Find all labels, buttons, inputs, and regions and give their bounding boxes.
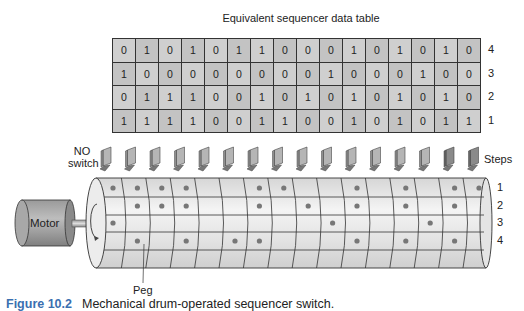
peg xyxy=(330,220,335,225)
peg xyxy=(403,203,408,208)
peg xyxy=(135,238,140,243)
peg xyxy=(476,185,481,190)
peg xyxy=(403,185,408,190)
no-switch-label-line1: NO xyxy=(68,145,96,157)
drum-end-face xyxy=(86,178,106,268)
no-switch-label: NO switch xyxy=(68,145,96,169)
no-switch-icon xyxy=(125,147,136,171)
peg xyxy=(403,238,408,243)
peg xyxy=(257,238,262,243)
peg xyxy=(354,203,359,208)
no-switch-icon xyxy=(296,147,307,171)
peg xyxy=(257,185,262,190)
steps-label: Steps xyxy=(484,153,512,165)
peg xyxy=(135,185,140,190)
motor-label: Motor xyxy=(30,217,59,229)
peg xyxy=(184,203,189,208)
peg xyxy=(232,238,237,243)
peg xyxy=(184,185,189,190)
peg xyxy=(159,203,164,208)
figure-caption-text: Mechanical drum-operated sequencer switc… xyxy=(82,297,334,311)
no-switch-icon xyxy=(174,147,185,171)
no-switch-icon xyxy=(100,147,111,171)
peg xyxy=(135,203,140,208)
no-switch-icon xyxy=(345,147,356,171)
no-switch-icon xyxy=(321,147,332,171)
peg xyxy=(452,238,457,243)
peg xyxy=(159,185,164,190)
figure-number: Figure 10.2 xyxy=(6,297,72,311)
peg xyxy=(281,185,286,190)
track-label: 4 xyxy=(497,234,503,246)
no-switch-icon xyxy=(198,147,209,171)
no-switch-label-line2: switch xyxy=(68,157,96,169)
figure-caption: Figure 10.2Mechanical drum-operated sequ… xyxy=(6,297,334,311)
no-switch-icon xyxy=(272,147,283,171)
no-switch-icon xyxy=(394,147,405,171)
peg xyxy=(452,203,457,208)
no-switch-icon xyxy=(468,147,479,171)
peg xyxy=(257,203,262,208)
track-label: 2 xyxy=(497,199,503,211)
peg xyxy=(110,220,115,225)
no-switch-icon xyxy=(370,147,381,171)
peg xyxy=(428,220,433,225)
no-switch-icon xyxy=(247,147,258,171)
no-switch-icon xyxy=(443,147,454,171)
no-switch-icon xyxy=(419,147,430,171)
track-label: 1 xyxy=(497,181,503,193)
track-label: 3 xyxy=(497,216,503,228)
peg-label: Peg xyxy=(133,284,153,296)
peg xyxy=(110,185,115,190)
peg xyxy=(306,203,311,208)
peg xyxy=(184,238,189,243)
no-switch-icon xyxy=(223,147,234,171)
peg xyxy=(354,185,359,190)
peg xyxy=(452,185,457,190)
peg xyxy=(354,238,359,243)
no-switch-icon xyxy=(149,147,160,171)
